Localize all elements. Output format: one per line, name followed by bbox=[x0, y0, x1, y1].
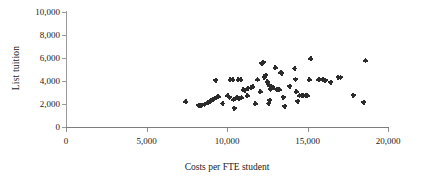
y-tick-label: 10,000 bbox=[14, 7, 60, 17]
data-point bbox=[240, 96, 243, 99]
data-point bbox=[283, 105, 286, 108]
x-tick-label: 5,000 bbox=[119, 136, 175, 146]
data-point bbox=[364, 59, 367, 62]
data-point bbox=[214, 79, 217, 82]
x-tick-label: 15,000 bbox=[280, 136, 336, 146]
data-point bbox=[262, 61, 265, 64]
x-tick-label: 10,000 bbox=[199, 136, 255, 146]
data-point bbox=[282, 96, 285, 99]
data-point bbox=[280, 72, 283, 75]
data-point bbox=[251, 85, 254, 88]
plot-area bbox=[66, 12, 388, 127]
data-point bbox=[264, 74, 267, 77]
data-point bbox=[256, 78, 259, 81]
x-axis-tick-labels: 05,00010,00015,00020,000 bbox=[0, 136, 424, 150]
data-point bbox=[259, 90, 262, 93]
data-point bbox=[352, 94, 355, 97]
y-tick-label: 0 bbox=[14, 122, 60, 132]
data-point bbox=[295, 90, 298, 93]
x-tick-mark bbox=[388, 128, 389, 132]
x-tick-mark bbox=[147, 128, 148, 132]
x-tick-mark bbox=[308, 128, 309, 132]
data-point bbox=[217, 95, 220, 98]
data-point bbox=[308, 78, 311, 81]
data-point bbox=[293, 67, 296, 70]
y-axis-tick-labels: 02,0004,0006,0008,00010,000 bbox=[12, 0, 60, 140]
x-tick-label: 20,000 bbox=[360, 136, 416, 146]
data-point bbox=[288, 85, 291, 88]
scatter-chart-figure: List tuition 02,0004,0006,0008,00010,000… bbox=[0, 0, 424, 187]
x-tick-label: 0 bbox=[38, 136, 94, 146]
x-tick-mark bbox=[227, 128, 228, 132]
data-point bbox=[268, 99, 271, 102]
y-tick-label: 6,000 bbox=[14, 53, 60, 63]
data-point bbox=[329, 81, 332, 84]
y-tick-label: 4,000 bbox=[14, 76, 60, 86]
data-point bbox=[278, 88, 281, 91]
data-point bbox=[296, 100, 299, 103]
data-point bbox=[294, 78, 297, 81]
data-point bbox=[233, 107, 236, 110]
data-point bbox=[362, 101, 365, 104]
data-point bbox=[324, 79, 327, 82]
x-axis-title: Costs per FTE student bbox=[66, 161, 388, 173]
data-point bbox=[239, 78, 242, 81]
data-point bbox=[231, 78, 234, 81]
data-point bbox=[306, 94, 309, 97]
x-tick-mark bbox=[66, 128, 67, 132]
data-point bbox=[274, 66, 277, 69]
data-point bbox=[254, 102, 257, 105]
data-point bbox=[246, 94, 249, 97]
data-point bbox=[339, 76, 342, 79]
y-tick-label: 2,000 bbox=[14, 99, 60, 109]
y-tick-label: 8,000 bbox=[14, 30, 60, 40]
